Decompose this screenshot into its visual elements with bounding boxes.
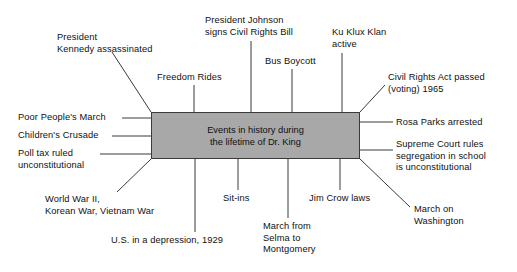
node-label-line: Supreme Court rules <box>396 139 486 151</box>
node-label-line: World War II, <box>45 194 154 206</box>
node-label-line: Montgomery <box>263 244 316 256</box>
node-label-line: Poll tax ruled <box>18 148 84 160</box>
node-label-rosa-parks-arrested: Rosa Parks arrested <box>396 117 483 129</box>
node-label-line: Freedom Rides <box>157 72 222 84</box>
node-label-march-on-washington: March onWashington <box>414 204 464 227</box>
node-label-line: Korean War, Vietnam War <box>45 206 154 218</box>
node-label-president-kennedy-assassinated: PresidentKennedy assassinated <box>57 32 152 55</box>
node-label-line: unconstitutional <box>18 160 84 172</box>
node-label-line: March on <box>414 204 464 216</box>
cluster-diagram: Events in history during the lifetime of… <box>0 0 517 272</box>
center-topic-line-1: Events in history during <box>207 124 304 136</box>
node-label-line: U.S. in a depression, 1929 <box>111 235 223 247</box>
node-label-poll-tax-ruled-unconstitutional: Poll tax ruledunconstitutional <box>18 148 84 171</box>
node-label-line: President Johnson <box>205 15 293 27</box>
node-label-march-from-selma-to-montgomery: March fromSelma toMontgomery <box>263 221 316 256</box>
node-label-line: Poor People's March <box>18 112 106 124</box>
node-label-line: Rosa Parks arrested <box>396 117 483 129</box>
node-label-line: Washington <box>414 216 464 228</box>
node-label-bus-boycott: Bus Boycott <box>265 56 316 68</box>
node-label-line: is unconstitutional <box>396 162 486 174</box>
node-label-line: March from <box>263 221 316 233</box>
node-label-sit-ins: Sit-ins <box>223 193 249 205</box>
node-label-jim-crow-laws: Jim Crow laws <box>309 193 370 205</box>
node-label-line: President <box>57 32 152 44</box>
node-label-line: Ku Klux Klan <box>332 27 386 39</box>
node-label-supreme-court-rules-segregation-unconstitutional: Supreme Court rulessegregation in school… <box>396 139 486 174</box>
node-label-line: Kennedy assassinated <box>57 44 152 56</box>
node-label-line: Jim Crow laws <box>309 193 370 205</box>
node-label-line: (voting) 1965 <box>388 84 485 96</box>
node-label-line: Selma to <box>263 233 316 245</box>
node-label-line: signs Civil Rights Bill <box>205 27 293 39</box>
node-label-line: Civil Rights Act passed <box>388 72 485 84</box>
node-label-ku-klux-klan-active: Ku Klux Klanactive <box>332 27 386 50</box>
connector-line <box>117 159 151 192</box>
node-label-line: segregation in school <box>396 151 486 163</box>
node-label-line: Children's Crusade <box>18 130 98 142</box>
node-label-line: Sit-ins <box>223 193 249 205</box>
center-topic-line-2: the lifetime of Dr. King <box>210 136 301 148</box>
connector-line <box>112 52 151 112</box>
node-label-civil-rights-act-passed-voting-1965: Civil Rights Act passed(voting) 1965 <box>388 72 485 95</box>
center-topic-box: Events in history during the lifetime of… <box>151 112 360 159</box>
node-label-freedom-rides: Freedom Rides <box>157 72 222 84</box>
node-label-line: active <box>332 39 386 51</box>
node-label-us-in-a-depression-1929: U.S. in a depression, 1929 <box>111 235 223 247</box>
node-label-line: Bus Boycott <box>265 56 316 68</box>
node-label-poor-peoples-march: Poor People's March <box>18 112 106 124</box>
node-label-childrens-crusade: Children's Crusade <box>18 130 98 142</box>
connector-line <box>360 85 385 112</box>
node-label-world-war-ii-korean-war-vietnam-war: World War II,Korean War, Vietnam War <box>45 194 154 217</box>
node-label-president-johnson-signs-civil-rights-bill: President Johnsonsigns Civil Rights Bill <box>205 15 293 38</box>
